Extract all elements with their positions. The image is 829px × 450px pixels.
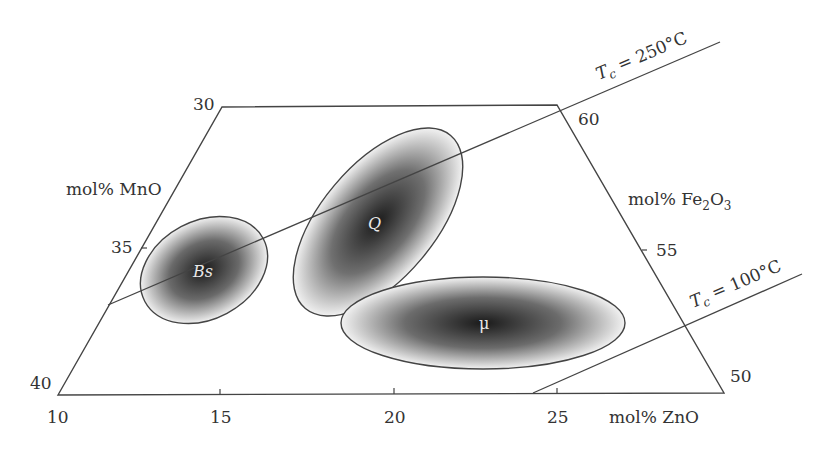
bottom-tick-10: 10 xyxy=(47,407,69,427)
left-tick-40: 40 xyxy=(30,373,52,393)
region-mu-label: μ xyxy=(479,314,489,333)
isotherm-250-label: Tc = 250°C xyxy=(593,27,691,86)
isotherm-100-label: Tc = 100°C xyxy=(687,255,785,314)
left-tick-35: 35 xyxy=(111,237,133,257)
bottom-tick-20: 20 xyxy=(384,407,406,427)
region-bs-label: Bs xyxy=(192,262,213,281)
right-tick-60: 60 xyxy=(578,109,600,129)
left-tick-30: 30 xyxy=(193,94,215,114)
right-axis-label: mol% Fe2O3 xyxy=(628,189,732,213)
right-tick-55: 55 xyxy=(656,240,678,260)
bottom-tick-25: 25 xyxy=(547,407,569,427)
bottom-axis-label: mol% ZnO xyxy=(609,407,699,427)
right-tick-50: 50 xyxy=(730,366,752,386)
region-q-label: Q xyxy=(368,214,381,233)
bottom-tick-15: 15 xyxy=(210,407,232,427)
left-axis-label: mol% MnO xyxy=(66,179,162,199)
ferrite-composition-diagram: 30 35 40 mol% MnO 10 15 20 25 mol% ZnO 6… xyxy=(0,0,829,450)
